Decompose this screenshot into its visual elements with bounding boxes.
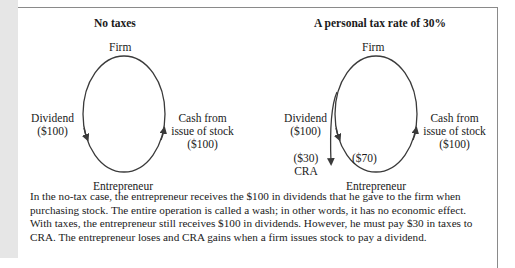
firm-label: Firm bbox=[362, 41, 384, 54]
firm-label: Firm bbox=[109, 41, 131, 54]
cash-from-stock-label: Cash from issue of stock ($100) bbox=[170, 112, 235, 151]
no-tax-title: No taxes bbox=[94, 17, 136, 30]
dividend-label: Dividend ($100) bbox=[283, 112, 328, 138]
cash-from-stock-label: Cash from issue of stock ($100) bbox=[422, 112, 487, 151]
cra-tax-label: ($30) CRA bbox=[291, 152, 321, 178]
net-dividend-label: ($70) bbox=[352, 152, 377, 165]
tax-title: A personal tax rate of 30% bbox=[314, 17, 446, 30]
figure-caption: In the no-tax case, the entrepreneur rec… bbox=[30, 190, 500, 244]
no-tax-cycle bbox=[83, 56, 165, 172]
dividend-label: Dividend ($100) bbox=[30, 112, 75, 138]
